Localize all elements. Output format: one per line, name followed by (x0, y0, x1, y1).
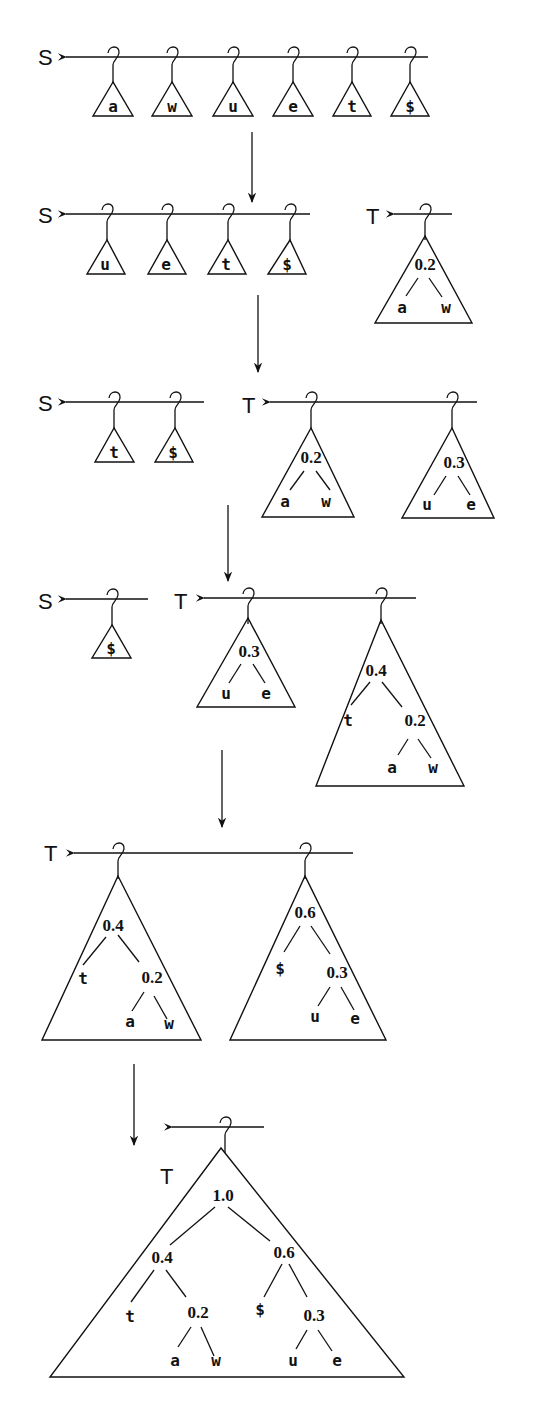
node-weight: 1.0 (212, 1186, 233, 1205)
leaf-label: e (350, 1009, 360, 1028)
leaf-label: w (321, 492, 331, 511)
leaf-label: u (221, 684, 231, 703)
leaf-label: e (161, 255, 171, 274)
node-weight: 0.2 (300, 448, 321, 467)
leaf-label: e (288, 97, 298, 116)
leaf-label: w (428, 758, 438, 777)
huffman-diagram: S a w u e t $ S u e t $ T 0.2 (0, 0, 536, 1408)
leaf-label: u (310, 1007, 320, 1026)
tree-0.3: 0.3 u e (197, 588, 295, 707)
leaf-label: t (109, 443, 119, 462)
tree-0.2: 0.2 a w (262, 392, 354, 517)
leaf-label: w (441, 298, 451, 317)
tree-0.4: 0.4 t 0.2 a w (316, 588, 464, 786)
leaf-label: u (100, 255, 110, 274)
leaf-label: $ (106, 639, 116, 658)
list-label-t: T (44, 841, 57, 866)
list-label-t: T (160, 1164, 173, 1189)
tree-1.0: 1.0 0.4 0.6 t 0.2 a w $ 0.3 u e (50, 1148, 404, 1377)
leaf-label: a (125, 1012, 135, 1031)
leaf-label: e (261, 684, 271, 703)
leaf-label: $ (255, 1300, 265, 1319)
node-weight: 0.3 (326, 963, 347, 982)
leaf-label: t (221, 255, 231, 274)
node-weight: 0.4 (102, 916, 124, 935)
step-4: S $ T 0.3 u e 0.4 t 0.2 a w (38, 588, 464, 827)
leaf-label: w (167, 97, 177, 116)
leaf-label: w (164, 1014, 174, 1033)
list-label-t: T (174, 589, 187, 614)
node-weight: 0.2 (404, 711, 425, 730)
leaf-label: e (466, 495, 476, 514)
node-weight: 0.2 (414, 255, 435, 274)
list-label-t: T (242, 393, 255, 418)
leaf-label: $ (168, 443, 178, 462)
leaf-label: $ (282, 255, 292, 274)
leaf-label: t (125, 1307, 135, 1326)
step-2: S u e t $ T 0.2 a w (38, 203, 472, 372)
leaf-label: t (343, 711, 353, 730)
list-label-s: S (38, 203, 53, 228)
list-label-t: T (366, 204, 379, 229)
leaf-label: t (347, 97, 357, 116)
list-label-s: S (38, 589, 53, 614)
node-weight: 0.2 (187, 1303, 208, 1322)
leaf-label: a (397, 298, 407, 317)
leaf-label: u (228, 97, 238, 116)
node-weight: 0.6 (273, 1243, 294, 1262)
leaf-label: a (280, 492, 290, 511)
leaf-label: w (211, 1351, 221, 1370)
node-weight: 0.6 (294, 903, 315, 922)
tree-0.3: 0.3 u e (402, 392, 494, 518)
leaf-label: $ (275, 959, 285, 978)
leaf-label: t (78, 969, 88, 988)
leaf-label: e (332, 1351, 342, 1370)
node-weight: 0.3 (238, 642, 259, 661)
node-weight: 0.3 (303, 1306, 324, 1325)
step-1: S a w u e t $ (38, 45, 429, 202)
leaf-label: u (288, 1351, 298, 1370)
tree-0.6: 0.6 $ 0.3 u e (230, 843, 386, 1040)
node-weight: 0.2 (141, 968, 162, 987)
tree-0.4: 0.4 t 0.2 a w (42, 843, 201, 1040)
tree-0.2: 0.2 a w (375, 204, 472, 323)
list-label-s: S (38, 391, 53, 416)
leaf-label: a (108, 97, 118, 116)
leaf-label: u (422, 495, 432, 514)
list-label-s: S (38, 45, 53, 70)
leaf-label: a (170, 1351, 180, 1370)
step-3: S t $ T 0.2 a w 0.3 u e (38, 391, 494, 581)
leaf-label: a (387, 758, 397, 777)
leaf-label: $ (405, 97, 415, 116)
node-weight: 0.4 (151, 1248, 173, 1267)
node-weight: 0.3 (443, 453, 464, 472)
step-5: T 0.4 t 0.2 a w 0.6 $ 0.3 u e (42, 841, 386, 1145)
step-6: T 1.0 0.4 0.6 t 0.2 a w $ 0.3 u e (50, 1117, 404, 1377)
node-weight: 0.4 (365, 661, 387, 680)
